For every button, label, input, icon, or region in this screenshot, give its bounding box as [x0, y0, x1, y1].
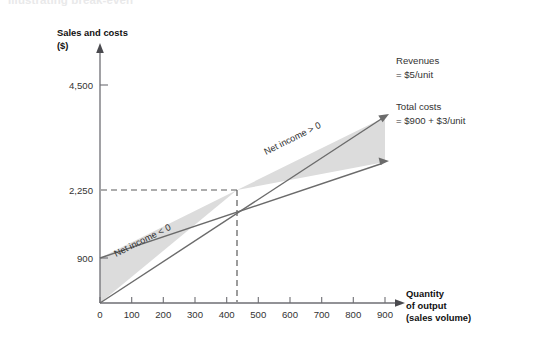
- break-even-chart: 0 100 200 300 400 500 600 700 800 900 4,…: [0, 0, 538, 351]
- x-tick-label-100: 100: [124, 309, 140, 320]
- y-axis-arrow-icon: [96, 43, 104, 53]
- x-axis-arrow-icon: [395, 299, 405, 307]
- legend-total-costs-name: Total costs: [396, 101, 442, 112]
- x-axis-title-line1: Quantity: [406, 288, 445, 299]
- y-axis-title-line1: Sales and costs: [57, 27, 128, 38]
- x-axis-title-line3: (sales volume): [406, 312, 471, 323]
- x-tick-label-400: 400: [219, 309, 235, 320]
- x-tick-label-800: 800: [345, 309, 361, 320]
- y-tick-label-2250: 2,250: [69, 185, 93, 196]
- y-axis-title-line2: ($): [57, 40, 68, 51]
- x-tick-label-600: 600: [282, 309, 298, 320]
- legend-total-costs-equation: = $900 + $3/unit: [396, 115, 466, 126]
- x-tick-label-900: 900: [377, 309, 393, 320]
- x-tick-marks: [100, 297, 385, 303]
- legend-revenues-equation: = $5/unit: [396, 69, 433, 80]
- y-tick-label-900: 900: [77, 253, 93, 264]
- x-tick-label-700: 700: [314, 309, 330, 320]
- legend-revenues-name: Revenues: [396, 55, 439, 66]
- y-tick-label-4500: 4,500: [69, 80, 93, 91]
- x-axis-title-line2: of output: [406, 300, 447, 311]
- x-tick-label-200: 200: [155, 309, 171, 320]
- x-tick-label-500: 500: [250, 309, 266, 320]
- y-tick-marks: [100, 85, 108, 258]
- chart-page: Illustrating break-even 0 100 200: [0, 0, 538, 351]
- profit-region-label: Net income > 0: [262, 120, 322, 157]
- x-tick-label-300: 300: [187, 309, 203, 320]
- x-tick-label-0: 0: [97, 309, 102, 320]
